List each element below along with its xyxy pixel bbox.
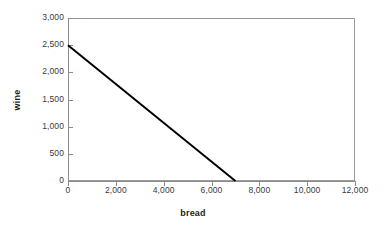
y-axis-tick-label: 500: [50, 149, 64, 158]
y-axis-tick-label: 2,500: [42, 40, 64, 49]
y-axis-title: wine: [12, 90, 22, 111]
x-axis-tick-label: 4,000: [153, 186, 175, 195]
x-axis-tick-label: 0: [66, 186, 71, 195]
x-axis-tick-label: 12,000: [342, 186, 369, 195]
x-axis-tick-label: 6,000: [201, 186, 223, 195]
chart-figure: 05001,0001,5002,0002,5003,000 02,0004,00…: [0, 0, 386, 233]
y-axis-tick-label: 2,000: [42, 67, 64, 76]
y-axis-title-wrap: wine: [6, 88, 28, 112]
y-axis-tick-label: 0: [59, 176, 64, 185]
y-axis-tick-label: 1,000: [42, 122, 64, 131]
x-axis-tick-label: 2,000: [105, 186, 127, 195]
x-axis-tick-label: 8,000: [248, 186, 270, 195]
y-axis-tick-label: 3,000: [42, 13, 64, 22]
y-axis-tick: [69, 181, 73, 182]
data-series-layer: [68, 18, 355, 181]
data-series-line: [68, 45, 235, 181]
x-axis-tick-label: 10,000: [294, 186, 321, 195]
y-axis-tick-label: 1,500: [42, 95, 64, 104]
x-axis-title: bread: [0, 208, 386, 218]
